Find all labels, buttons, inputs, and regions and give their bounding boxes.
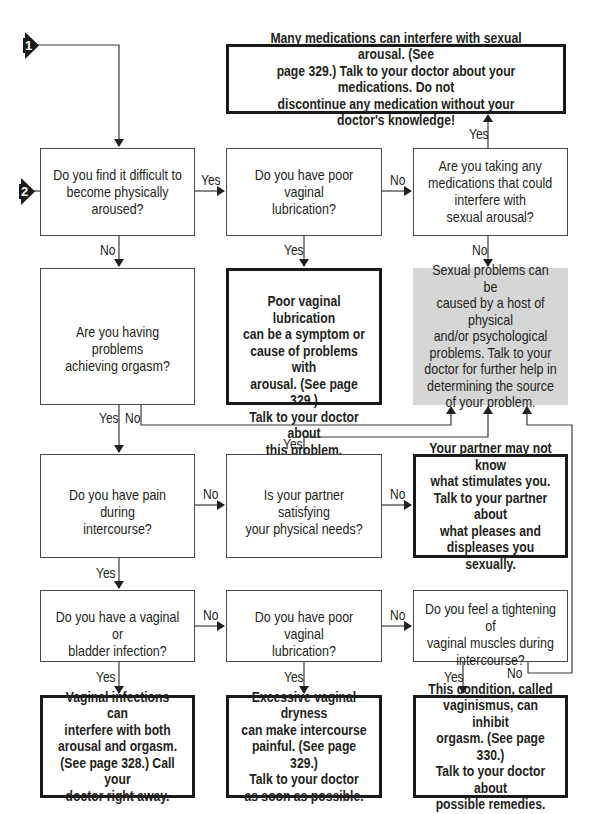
edge-label-aroused-no: No xyxy=(100,243,115,257)
answer-general: Sexual problems can be caused by a host … xyxy=(413,268,568,405)
entry-marker-2: 2 xyxy=(19,178,35,205)
edge-label-lubrication-top-no: No xyxy=(390,173,405,187)
edge-label-lubrication-top-yes: Yes xyxy=(284,243,304,257)
edge-label-infection-no: No xyxy=(203,608,218,622)
question-pain-text: Do you have pain during intercourse? xyxy=(52,487,184,538)
answer-dryness-text: Excessive vaginal dryness can make inter… xyxy=(241,689,367,805)
answer-partner-text: Your partner may not know what stimulate… xyxy=(428,440,553,572)
question-lubrication-top: Do you have poor vaginal lubrication? xyxy=(226,148,382,236)
question-lubrication-bottom-text: Do you have poor vaginal lubrication? xyxy=(238,609,370,660)
question-medications: Are you taking any medications that coul… xyxy=(413,148,568,236)
edge-label-partner-no: No xyxy=(390,487,405,501)
question-tightening: Do you feel a tightening of vaginal musc… xyxy=(413,590,568,662)
answer-infection: Vaginal infections can interfere with bo… xyxy=(40,695,195,798)
answer-partner: Your partner may not know what stimulate… xyxy=(413,454,568,558)
edge-label-aroused-yes: Yes xyxy=(201,173,221,187)
entry-marker-1: 1 xyxy=(23,32,39,59)
question-orgasm: Are you having problems achieving orgasm… xyxy=(40,268,195,405)
edge-label-orgasm-no: No xyxy=(125,411,140,425)
answer-vaginismus-text: This condition, called vaginismus, can i… xyxy=(428,681,553,813)
question-medications-text: Are you taking any medications that coul… xyxy=(428,158,552,226)
edge-label-orgasm-yes: Yes xyxy=(99,411,119,425)
question-partner: Is your partner satisfying your physical… xyxy=(226,454,382,558)
question-pain: Do you have pain during intercourse? xyxy=(40,454,195,558)
answer-medications: Many medications can interfere with sexu… xyxy=(226,44,566,114)
edge-label-medications-no: No xyxy=(472,243,487,257)
answer-lubrication: Poor vaginal lubrication can be a sympto… xyxy=(226,268,382,405)
answer-infection-text: Vaginal infections can interfere with bo… xyxy=(55,689,180,805)
edge-label-partner-yes: Yes xyxy=(283,437,303,451)
question-lubrication-bottom: Do you have poor vaginal lubrication? xyxy=(226,590,382,662)
answer-general-text: Sexual problems can be caused by a host … xyxy=(424,262,557,411)
question-tightening-text: Do you feel a tightening of vaginal musc… xyxy=(425,601,557,669)
edge-label-pain-no: No xyxy=(203,487,218,501)
edge-label-medications-yes: Yes xyxy=(469,127,489,141)
answer-vaginismus: This condition, called vaginismus, can i… xyxy=(413,695,568,798)
entry-marker-label: 2 xyxy=(21,184,28,199)
edge-label-pain-yes: Yes xyxy=(96,566,116,580)
edge-label-lubrication-bottom-no: No xyxy=(390,608,405,622)
question-infection: Do you have a vaginal or bladder infecti… xyxy=(40,590,195,662)
question-aroused-text: Do you find it difficult to become physi… xyxy=(52,167,184,218)
edge-label-tightening-no: No xyxy=(507,666,522,680)
question-aroused: Do you find it difficult to become physi… xyxy=(40,148,195,236)
answer-medications-text: Many medications can interfere with sexu… xyxy=(256,30,537,129)
edge-label-lubrication-bottom-yes: Yes xyxy=(284,670,304,684)
answer-dryness: Excessive vaginal dryness can make inter… xyxy=(226,695,382,798)
entry-marker-label: 1 xyxy=(25,38,32,53)
answer-lubrication-text: Poor vaginal lubrication can be a sympto… xyxy=(241,293,367,458)
question-lubrication-top-text: Do you have poor vaginal lubrication? xyxy=(238,167,370,218)
edge-label-infection-yes: Yes xyxy=(96,670,116,684)
question-infection-text: Do you have a vaginal or bladder infecti… xyxy=(52,609,184,660)
question-partner-text: Is your partner satisfying your physical… xyxy=(238,487,370,538)
edge-label-tightening-yes: Yes xyxy=(444,670,464,684)
question-orgasm-text: Are you having problems achieving orgasm… xyxy=(52,324,184,375)
